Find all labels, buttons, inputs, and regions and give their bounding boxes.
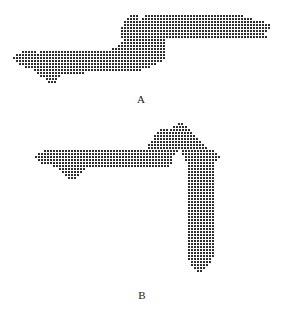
dot bbox=[206, 192, 208, 194]
dot bbox=[167, 165, 169, 167]
dot bbox=[191, 216, 193, 218]
dot bbox=[113, 159, 115, 161]
dot bbox=[212, 177, 214, 179]
dot bbox=[169, 147, 171, 149]
dot bbox=[212, 201, 214, 203]
dot bbox=[140, 165, 142, 167]
dot bbox=[197, 222, 199, 224]
dot bbox=[188, 225, 190, 227]
dot bbox=[77, 174, 79, 176]
dot bbox=[157, 132, 159, 134]
dot bbox=[200, 249, 202, 251]
dot bbox=[65, 162, 67, 164]
dot bbox=[197, 192, 199, 194]
dot bbox=[184, 138, 186, 140]
dot bbox=[160, 147, 162, 149]
dot bbox=[104, 150, 106, 152]
dot bbox=[194, 258, 196, 260]
dot bbox=[209, 186, 211, 188]
dot bbox=[158, 165, 160, 167]
dot bbox=[166, 147, 168, 149]
dot bbox=[173, 153, 175, 155]
dot bbox=[191, 252, 193, 254]
dot bbox=[65, 171, 67, 173]
dot bbox=[65, 156, 67, 158]
dot bbox=[191, 207, 193, 209]
dot bbox=[218, 156, 220, 158]
dot bbox=[74, 171, 76, 173]
dot bbox=[209, 153, 211, 155]
dot bbox=[212, 237, 214, 239]
dot bbox=[185, 159, 187, 161]
dot bbox=[128, 156, 130, 158]
dot bbox=[140, 156, 142, 158]
dot bbox=[200, 177, 202, 179]
dot bbox=[203, 201, 205, 203]
dot bbox=[200, 246, 202, 248]
dot bbox=[200, 240, 202, 242]
dot bbox=[200, 180, 202, 182]
dot bbox=[191, 192, 193, 194]
dot bbox=[197, 198, 199, 200]
dot bbox=[206, 159, 208, 161]
dot bbox=[163, 141, 165, 143]
dot bbox=[44, 150, 46, 152]
dot bbox=[191, 183, 193, 185]
dot bbox=[197, 228, 199, 230]
dot bbox=[181, 132, 183, 134]
dot bbox=[193, 135, 195, 137]
dot bbox=[209, 192, 211, 194]
dot bbox=[101, 150, 103, 152]
dot bbox=[140, 159, 142, 161]
dot bbox=[154, 147, 156, 149]
dot bbox=[203, 159, 205, 161]
dot bbox=[110, 153, 112, 155]
dot bbox=[188, 246, 190, 248]
dot bbox=[104, 156, 106, 158]
dot bbox=[196, 147, 198, 149]
dot bbox=[188, 228, 190, 230]
dot bbox=[95, 153, 97, 155]
dot bbox=[74, 174, 76, 176]
dot bbox=[110, 162, 112, 164]
dot bbox=[194, 267, 196, 269]
dot bbox=[65, 165, 67, 167]
dot bbox=[59, 153, 61, 155]
dot bbox=[44, 156, 46, 158]
dot bbox=[155, 153, 157, 155]
dot bbox=[203, 183, 205, 185]
dot bbox=[212, 156, 214, 158]
dot bbox=[169, 138, 171, 140]
dot bbox=[194, 192, 196, 194]
dot bbox=[104, 159, 106, 161]
dot bbox=[209, 228, 211, 230]
dot bbox=[215, 159, 217, 161]
dot bbox=[172, 141, 174, 143]
dot bbox=[98, 153, 100, 155]
dot bbox=[38, 159, 40, 161]
dot bbox=[122, 153, 124, 155]
dot bbox=[212, 240, 214, 242]
dot bbox=[188, 219, 190, 221]
dot bbox=[160, 138, 162, 140]
dot bbox=[209, 156, 211, 158]
dot bbox=[161, 156, 163, 158]
dot bbox=[197, 168, 199, 170]
dot bbox=[194, 186, 196, 188]
dot bbox=[206, 228, 208, 230]
dot bbox=[209, 165, 211, 167]
dot bbox=[206, 189, 208, 191]
dot bbox=[194, 261, 196, 263]
dot bbox=[203, 249, 205, 251]
dot bbox=[101, 162, 103, 164]
dot bbox=[212, 198, 214, 200]
dot bbox=[181, 141, 183, 143]
dot bbox=[194, 156, 196, 158]
dot bbox=[50, 153, 52, 155]
dot bbox=[50, 159, 52, 161]
dot bbox=[206, 165, 208, 167]
dot bbox=[175, 144, 177, 146]
dot bbox=[200, 216, 202, 218]
dot bbox=[119, 162, 121, 164]
dot bbox=[74, 150, 76, 152]
